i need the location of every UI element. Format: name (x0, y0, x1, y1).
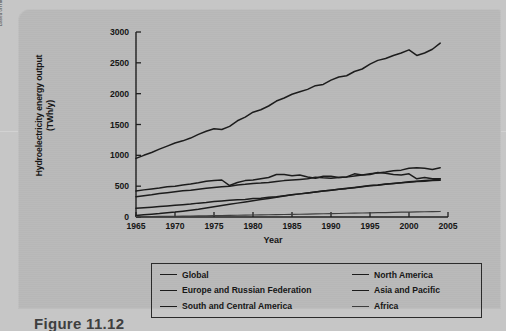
legend-item-label: Europe and Russian Federation (182, 286, 311, 295)
legend-line-swatch-icon (160, 306, 177, 307)
series-line-north-america (136, 173, 440, 192)
legend-item-europe-and-russian-federation: Europe and Russian Federation (160, 286, 352, 295)
legend-line-swatch-icon (352, 290, 369, 291)
chart-series-lines (136, 43, 440, 217)
y-tick-label: 1000 (95, 150, 129, 160)
legend-item-label: Africa (374, 302, 398, 311)
x-tick-label: 1985 (275, 221, 309, 231)
legend-item-north-america: North America (352, 271, 491, 280)
y-axis-title: Hydroelectricity energy output (TWh/y) (34, 46, 55, 186)
legend-line-swatch-icon (160, 274, 177, 275)
legend-item-asia-and-pacific: Asia and Pacific (352, 286, 491, 295)
y-tick-label: 3000 (95, 27, 129, 37)
x-tick-label: 1965 (119, 221, 153, 231)
x-tick-label: 1990 (314, 221, 348, 231)
x-tick-label: 1995 (353, 221, 387, 231)
series-line-global (136, 43, 440, 158)
legend-line-swatch-icon (160, 290, 177, 291)
figure-caption: Figure 11.12 (34, 315, 124, 331)
series-line-europe-and-russian-federation (136, 168, 440, 197)
y-tick-label: 500 (95, 181, 129, 191)
series-line-africa (136, 211, 440, 216)
x-tick-label: 1975 (197, 221, 231, 231)
chart-axes (136, 32, 448, 217)
y-tick-label: 1500 (95, 120, 129, 130)
legend-item-label: South and Central America (182, 302, 292, 311)
figure-panel: Hydroelectricity energy output (TWh/y) Y… (18, 9, 501, 309)
legend-item-global: Global (160, 271, 352, 280)
x-tick-label: 1970 (158, 221, 192, 231)
page-background: Based on http://openlearn.open.ac.uk/fil… (0, 0, 506, 331)
x-tick-label: 2005 (431, 221, 465, 231)
x-tick-label: 2000 (392, 221, 426, 231)
y-tick-label: 2000 (95, 89, 129, 99)
chart-legend: GlobalNorth AmericaEurope and Russian Fe… (151, 263, 482, 318)
source-credit-text: Based on http://openlearn.open.ac.uk/fil… (0, 0, 3, 26)
legend-item-label: Global (182, 271, 209, 280)
legend-item-label: North America (374, 271, 433, 280)
x-axis-title: Year (118, 235, 428, 245)
legend-item-label: Asia and Pacific (374, 286, 440, 295)
legend-item-south-and-central-america: South and Central America (160, 302, 352, 311)
x-tick-label: 1980 (236, 221, 270, 231)
legend-item-africa: Africa (352, 302, 491, 311)
y-tick-label: 2500 (95, 58, 129, 68)
legend-line-swatch-icon (352, 306, 369, 307)
legend-line-swatch-icon (352, 274, 369, 275)
